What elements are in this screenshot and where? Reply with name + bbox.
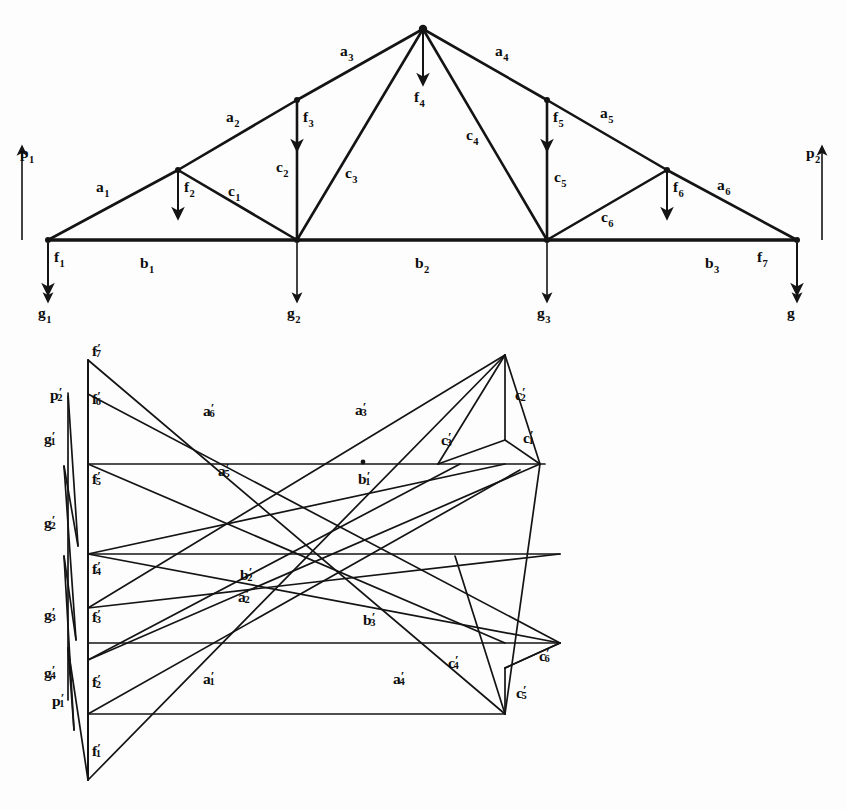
g1-ground-label: g1 [38,304,51,325]
c2p-force-diagonal-label: c′2 [515,384,526,403]
f4p-force-node-label: f′4 [92,558,102,577]
f1p-force-node-label: f′1 [92,740,101,759]
c5p-force-diagonal-label: c′5 [516,682,527,701]
force-rafter-a2 [88,464,460,660]
a3p-force-rafter-label: a′3 [355,399,367,418]
b2p-force-horizontal-label: b′2 [240,564,253,583]
force-cluster-c4-long [455,556,505,714]
f4-load-label: f4 [414,88,426,109]
p2p-force-closing-label: p′2 [50,384,63,403]
truss-member-c1 [178,170,297,240]
g3-ground-label: g3 [537,304,550,325]
p1p-force-closing-label: p′1 [52,690,65,709]
figure-canvas: a1a2a3a4a5a6b1b2b3c1c2c3c4c5c6f1f2f3f4f5… [0,0,847,809]
force-cluster-c2-to-c1 [505,355,540,464]
truss-reaction-arrows [22,150,822,240]
truss-member-c3 [297,29,423,240]
truss-member-a6 [667,170,797,240]
force-rafter-down-2 [88,394,560,643]
joint-apex [419,25,427,33]
joint-left-support [45,237,51,243]
g2-ground-label: g2 [287,304,300,325]
truss-labels-group: a1a2a3a4a5a6b1b2b3c1c2c3c4c5c6f1f2f3f4f5… [20,42,820,325]
c4p-force-diagonal-label: c′4 [448,652,460,671]
joint-a5-a6 [664,167,670,173]
a2p-force-rafter-label: a′2 [238,586,250,605]
f1-load-label: f1 [54,248,65,269]
closing-line-seg-1 [68,393,78,546]
g4-ground-label: g [787,304,795,321]
force-rafter-up-4 [88,464,505,554]
c2-member-label: c2 [276,158,289,179]
c6p-force-diagonal-label: c′6 [539,645,550,664]
a5-member-label: a5 [600,104,613,125]
a6p-force-rafter-label: a′6 [203,400,215,419]
c3-member-label: c3 [345,164,358,185]
f7-load-label: f7 [757,248,768,269]
f6p-force-node-label: f′6 [92,388,101,407]
f3-load-label: f3 [303,108,314,129]
f7p-force-node-label: f′7 [92,340,101,359]
c6-member-label: c6 [601,208,614,229]
a4-member-label: a4 [495,42,509,63]
c1p-force-diagonal-label: c′1 [523,427,534,446]
f2-load-label: f2 [184,178,195,199]
a2-member-label: a2 [226,108,239,129]
joint-a1-a2 [175,167,181,173]
force-diagram-lines [64,355,560,780]
p2-reaction-label: p2 [806,144,820,165]
a1-member-label: a1 [96,178,109,199]
joint-c2-top [294,97,300,103]
g1p-force-reaction-label: g′1 [44,428,56,447]
f3p-force-node-label: f′3 [92,606,101,625]
joint-panel-2 [294,237,300,243]
b1-member-label: b1 [140,254,154,275]
truss-load-arrows [48,32,797,290]
force-node-b1p [361,460,366,465]
force-cluster-right-down [505,464,540,714]
a3-member-label: a3 [340,42,353,63]
a1p-force-rafter-label: a′1 [203,668,215,687]
b3p-force-horizontal-label: b′3 [363,609,376,628]
g2p-force-reaction-label: g′2 [44,512,56,531]
joint-panel-3 [544,237,550,243]
g3p-force-reaction-label: g′3 [44,604,56,623]
f2p-force-node-label: f′2 [92,671,101,690]
f6-load-label: f6 [673,178,684,199]
b3-member-label: b3 [705,254,719,275]
c4-member-label: c4 [466,126,479,147]
a5p-force-rafter-label: a′5 [218,460,230,479]
truss-member-a1 [48,170,178,240]
truss-member-a3 [297,29,423,100]
a6-member-label: a6 [717,176,730,197]
closing-line-seg-6 [68,648,74,730]
joint-c5-top [544,97,550,103]
truss-member-a4 [423,29,547,100]
closing-line-seg-7 [68,648,88,780]
c3p-force-diagonal-label: c′3 [441,429,452,448]
g4p-force-reaction-label: g′4 [44,662,56,681]
b1p-force-horizontal-label: b′1 [358,468,371,487]
truss-member-c4 [423,29,547,240]
force-rafter-down-1 [88,360,505,714]
f5p-force-node-label: f′5 [92,468,101,487]
f5-load-label: f5 [553,108,564,129]
a4p-force-rafter-label: a′4 [393,668,405,687]
figure-sheet: a1a2a3a4a5a6b1b2b3c1c2c3c4c5c6f1f2f3f4f5… [0,0,847,809]
c5-member-label: c5 [554,168,567,189]
joint-right-support [794,237,800,243]
b2-member-label: b2 [415,254,429,275]
